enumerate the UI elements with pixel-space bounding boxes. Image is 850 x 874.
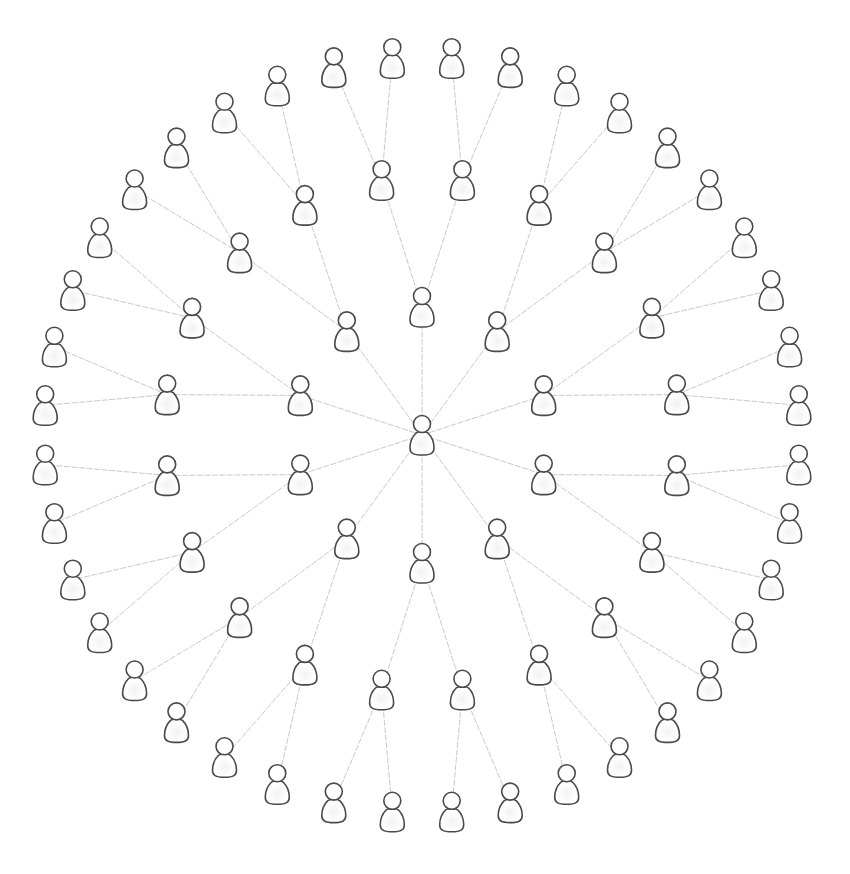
central-person-node[interactable] — [410, 416, 434, 456]
person-node[interactable] — [532, 455, 556, 495]
person-node[interactable] — [293, 645, 317, 685]
person-body-icon — [732, 629, 756, 653]
person-node[interactable] — [380, 39, 404, 78]
person-node[interactable] — [778, 327, 802, 367]
person-node[interactable] — [180, 533, 204, 573]
person-node[interactable] — [778, 504, 802, 544]
person-body-icon — [555, 82, 579, 106]
person-head-icon — [443, 39, 460, 56]
person-body-icon — [410, 560, 434, 584]
person-head-icon — [701, 661, 718, 678]
person-node[interactable] — [228, 598, 252, 638]
person-node[interactable] — [380, 792, 404, 832]
person-node[interactable] — [33, 386, 57, 426]
person-node[interactable] — [787, 445, 811, 485]
person-node[interactable] — [592, 233, 616, 273]
person-node[interactable] — [450, 670, 474, 710]
person-node[interactable] — [697, 170, 721, 210]
person-node[interactable] — [335, 519, 359, 559]
person-node[interactable] — [213, 738, 237, 778]
person-body-icon — [123, 186, 147, 210]
person-node[interactable] — [759, 560, 783, 600]
person-node[interactable] — [322, 48, 346, 88]
person-node[interactable] — [180, 298, 204, 338]
person-node[interactable] — [155, 456, 179, 496]
person-node[interactable] — [732, 613, 756, 653]
connection-edge — [100, 552, 192, 632]
person-head-icon — [790, 445, 807, 462]
person-node[interactable] — [450, 161, 474, 201]
person-node[interactable] — [42, 327, 66, 367]
person-node[interactable] — [165, 703, 189, 743]
person-body-icon — [656, 144, 680, 168]
person-node[interactable] — [123, 170, 147, 210]
person-node[interactable] — [485, 312, 509, 352]
person-node[interactable] — [498, 783, 522, 823]
person-node[interactable] — [665, 456, 689, 496]
person-node[interactable] — [288, 455, 312, 495]
person-node[interactable] — [322, 783, 346, 823]
person-head-icon — [489, 519, 506, 536]
person-head-icon — [414, 416, 431, 433]
person-node[interactable] — [555, 66, 579, 106]
person-body-icon — [410, 432, 434, 456]
person-node[interactable] — [640, 533, 664, 573]
person-node[interactable] — [759, 271, 783, 311]
person-node[interactable] — [213, 93, 237, 133]
person-node[interactable] — [88, 613, 112, 653]
person-node[interactable] — [370, 670, 394, 710]
connection-edge — [544, 318, 652, 396]
person-node[interactable] — [61, 560, 85, 600]
person-node[interactable] — [532, 376, 556, 416]
person-node[interactable] — [33, 445, 57, 485]
person-body-icon — [33, 402, 57, 426]
person-node[interactable] — [656, 703, 680, 743]
nodes-layer — [33, 39, 811, 832]
person-node[interactable] — [370, 161, 394, 201]
person-node[interactable] — [732, 218, 756, 258]
person-node[interactable] — [42, 504, 66, 544]
person-node[interactable] — [485, 519, 509, 559]
person-node[interactable] — [787, 386, 811, 426]
person-node[interactable] — [88, 218, 112, 258]
person-body-icon — [410, 304, 434, 328]
person-node[interactable] — [592, 598, 616, 638]
person-node[interactable] — [293, 186, 317, 226]
connection-edge — [54, 347, 167, 395]
person-node[interactable] — [697, 661, 721, 701]
person-node[interactable] — [527, 645, 551, 685]
person-node[interactable] — [608, 738, 632, 778]
person-body-icon — [665, 472, 689, 496]
person-node[interactable] — [555, 765, 579, 805]
person-node[interactable] — [265, 66, 289, 106]
person-node[interactable] — [608, 93, 632, 133]
person-node[interactable] — [410, 288, 434, 328]
person-node[interactable] — [527, 186, 551, 226]
person-node[interactable] — [123, 661, 147, 701]
person-body-icon — [265, 82, 289, 106]
person-node[interactable] — [665, 375, 689, 415]
person-node[interactable] — [440, 39, 464, 78]
person-head-icon — [64, 560, 81, 577]
person-node[interactable] — [288, 376, 312, 416]
person-head-icon — [296, 645, 313, 662]
person-head-icon — [216, 738, 233, 755]
person-node[interactable] — [335, 312, 359, 352]
person-node[interactable] — [61, 271, 85, 311]
person-node[interactable] — [640, 298, 664, 338]
person-node[interactable] — [265, 765, 289, 805]
person-node[interactable] — [498, 48, 522, 88]
person-node[interactable] — [155, 375, 179, 415]
person-node[interactable] — [165, 128, 189, 168]
person-head-icon — [781, 504, 798, 521]
person-head-icon — [414, 288, 431, 305]
person-node[interactable] — [440, 792, 464, 832]
person-node[interactable] — [410, 544, 434, 584]
person-node[interactable] — [228, 233, 252, 273]
person-head-icon — [384, 792, 401, 809]
person-node[interactable] — [656, 128, 680, 168]
connection-edge — [652, 290, 771, 318]
person-head-icon — [659, 703, 676, 720]
person-head-icon — [736, 218, 753, 235]
person-head-icon — [535, 376, 552, 393]
